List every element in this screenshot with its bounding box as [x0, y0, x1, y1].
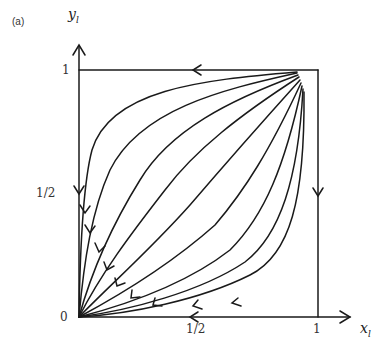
- trajectory-2-arrow-icon: [85, 225, 95, 233]
- trajectory-2: [79, 73, 297, 317]
- trajectory-1-arrow-icon: [80, 205, 90, 213]
- trajectory-7: [79, 86, 302, 317]
- trajectory-4: [79, 77, 299, 317]
- trajectory-3-arrow-icon: [95, 243, 105, 252]
- phase-portrait: [0, 0, 390, 358]
- trajectory-9-arrow-icon: [232, 298, 241, 306]
- trajectory-6-arrow-icon: [131, 290, 140, 298]
- trajectory-1: [79, 72, 297, 317]
- trajectory-3: [79, 75, 298, 317]
- trajectory-8-arrow-icon: [193, 300, 202, 309]
